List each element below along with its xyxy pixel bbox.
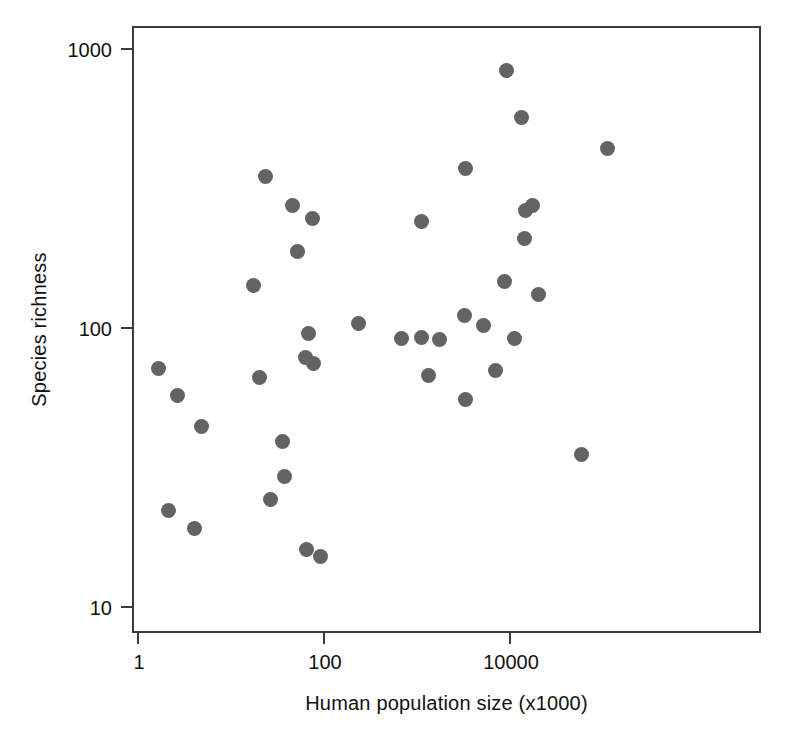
data-point [285, 198, 300, 213]
data-point [414, 330, 429, 345]
data-point [275, 434, 290, 449]
y-tick-label: 10 [90, 597, 112, 620]
data-point [151, 361, 166, 376]
data-point [301, 326, 316, 341]
data-point [299, 542, 314, 557]
data-point [497, 274, 512, 289]
data-point [457, 308, 472, 323]
data-point-layer [134, 28, 759, 631]
data-point [306, 356, 321, 371]
data-point [432, 332, 447, 347]
x-tick: 1 [137, 631, 139, 644]
data-point [263, 492, 278, 507]
data-point [488, 363, 503, 378]
y-tick-label: 100 [79, 318, 112, 341]
data-point [517, 231, 532, 246]
data-point [194, 419, 209, 434]
y-axis-title: Species richness [22, 26, 56, 633]
data-point [600, 141, 615, 156]
x-tick: 10000 [509, 631, 511, 644]
plot-area: 101001000 110010000 [132, 26, 761, 633]
data-point [170, 388, 185, 403]
data-point [458, 392, 473, 407]
data-point [246, 278, 261, 293]
y-tick: 100 [121, 327, 134, 329]
x-tick-label: 10000 [483, 651, 539, 674]
data-point [187, 521, 202, 536]
data-point [351, 316, 366, 331]
data-point [414, 214, 429, 229]
data-point [476, 318, 491, 333]
data-point [258, 169, 273, 184]
y-tick: 1000 [121, 48, 134, 50]
data-point [161, 503, 176, 518]
scatter-plot-figure: Species richness 101001000 110010000 Hum… [0, 0, 795, 743]
y-tick: 10 [121, 606, 134, 608]
data-point [394, 331, 409, 346]
data-point [277, 469, 292, 484]
data-point [574, 447, 589, 462]
y-tick-label: 1000 [68, 39, 113, 62]
data-point [514, 110, 529, 125]
data-point [313, 549, 328, 564]
data-point [507, 331, 522, 346]
data-point [290, 244, 305, 259]
data-point [525, 198, 540, 213]
x-tick-label: 1 [133, 651, 144, 674]
x-axis-title: Human population size (x1000) [132, 692, 761, 715]
x-tick: 100 [323, 631, 325, 644]
data-point [531, 287, 546, 302]
data-point [305, 211, 320, 226]
data-point [458, 161, 473, 176]
data-point [499, 63, 514, 78]
x-tick-label: 100 [308, 651, 341, 674]
data-point [252, 370, 267, 385]
data-point [421, 368, 436, 383]
